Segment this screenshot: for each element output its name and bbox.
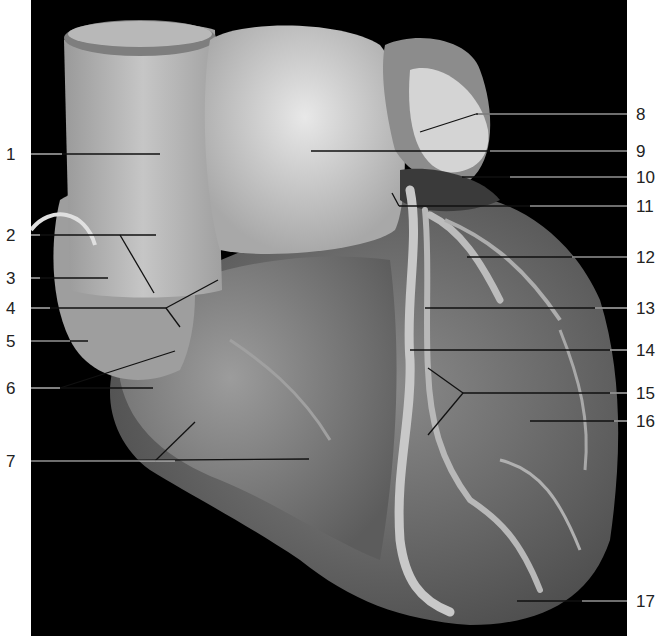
label-5: 5 <box>6 333 15 350</box>
label-7: 7 <box>6 453 15 470</box>
label-15: 15 <box>636 385 655 402</box>
label-4: 4 <box>6 300 15 317</box>
heart-photo <box>31 0 627 636</box>
label-14: 14 <box>636 342 655 359</box>
heart-illustration <box>31 0 627 636</box>
label-11: 11 <box>636 198 654 215</box>
label-12: 12 <box>636 249 655 266</box>
label-10: 10 <box>636 169 655 186</box>
label-13: 13 <box>636 300 655 317</box>
label-16: 16 <box>636 413 655 430</box>
label-3: 3 <box>6 270 15 287</box>
label-9: 9 <box>636 143 645 160</box>
label-8: 8 <box>636 106 645 123</box>
label-1: 1 <box>6 146 15 163</box>
label-6: 6 <box>6 380 15 397</box>
label-2: 2 <box>6 227 15 244</box>
label-17: 17 <box>636 593 655 610</box>
